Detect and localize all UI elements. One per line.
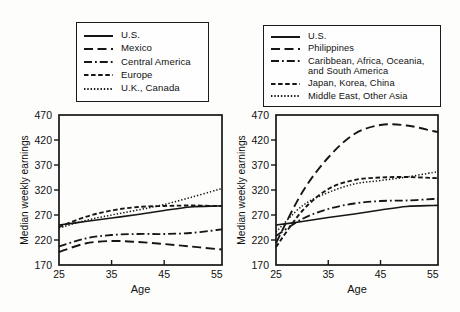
chart-left: 17022027032037042047025354555AgeMedian w…	[0, 96, 230, 312]
legend-item: U.K., Canada	[84, 83, 204, 94]
y-tick-label: 320	[251, 184, 269, 196]
legend-right: U.S.PhilippinesCaribbean, Africa, Oceani…	[263, 25, 441, 107]
y-axis-title: Median weekly earnings	[19, 135, 30, 244]
x-tick-label: 35	[322, 268, 334, 280]
x-axis-title: Age	[131, 283, 151, 295]
series-line	[59, 229, 222, 246]
legend-line-sample-icon	[271, 33, 300, 41]
legend-label: Caribbean, Africa, Oceania, and South Am…	[308, 56, 436, 77]
legend-item: U.S.	[84, 30, 204, 41]
y-tick-label: 320	[34, 184, 52, 196]
legend-line-sample-icon	[271, 57, 300, 65]
legend-item: Central America	[84, 57, 204, 68]
y-tick-label: 270	[251, 209, 269, 221]
x-tick-label: 45	[375, 268, 387, 280]
legend-label: Japan, Korea, China	[308, 78, 395, 88]
legend-label: U.S.	[121, 30, 140, 41]
series-line	[276, 199, 438, 236]
x-tick-label: 45	[158, 268, 170, 280]
y-tick-label: 170	[34, 259, 52, 271]
x-axis-title: Age	[347, 283, 367, 295]
y-tick-label: 370	[34, 159, 52, 171]
y-tick-label: 220	[251, 234, 269, 246]
chart-right: 17022027032037042047025354555AgeMedian w…	[230, 96, 460, 312]
legend-line-sample-icon	[84, 32, 113, 40]
x-tick-label: 55	[427, 268, 439, 280]
legend-line-sample-icon	[271, 80, 300, 88]
legend-item: Philippines	[271, 43, 436, 53]
legend-label: Mexico	[121, 43, 152, 54]
legend-item: Japan, Korea, China	[271, 78, 436, 88]
y-tick-label: 370	[251, 159, 269, 171]
figure: U.S.MexicoCentral AmericaEuropeU.K., Can…	[0, 0, 460, 312]
legend-item: Europe	[84, 70, 204, 81]
legend-left: U.S.MexicoCentral AmericaEuropeU.K., Can…	[76, 22, 209, 102]
y-axis-title: Median weekly earnings	[236, 135, 247, 244]
series-line	[276, 177, 438, 247]
legend-label: Philippines	[308, 43, 354, 53]
x-tick-label: 25	[53, 268, 65, 280]
legend-line-sample-icon	[84, 58, 113, 66]
x-tick-label: 25	[270, 268, 282, 280]
legend-label: Europe	[121, 70, 153, 81]
series-line	[59, 206, 222, 225]
y-tick-label: 270	[34, 209, 52, 221]
series-line	[276, 172, 438, 232]
x-tick-label: 55	[211, 268, 223, 280]
y-tick-label: 470	[34, 109, 52, 121]
y-tick-label: 220	[34, 234, 52, 246]
legend-line-sample-icon	[271, 45, 300, 53]
legend-item: Mexico	[84, 43, 204, 54]
legend-label: U.K., Canada	[121, 83, 180, 94]
legend-label: U.S.	[308, 31, 326, 41]
legend-item: U.S.	[271, 31, 436, 41]
legend-item: Caribbean, Africa, Oceania, and South Am…	[271, 56, 436, 77]
legend-line-sample-icon	[84, 71, 113, 79]
legend-label: Central America	[121, 57, 191, 68]
y-tick-label: 420	[34, 134, 52, 146]
y-tick-label: 170	[251, 259, 269, 271]
plot-border	[276, 115, 438, 265]
legend-line-sample-icon	[84, 45, 113, 53]
legend-line-sample-icon	[84, 85, 113, 93]
x-tick-label: 35	[106, 268, 118, 280]
series-line	[59, 241, 222, 252]
y-tick-label: 420	[251, 134, 269, 146]
y-tick-label: 470	[251, 109, 269, 121]
